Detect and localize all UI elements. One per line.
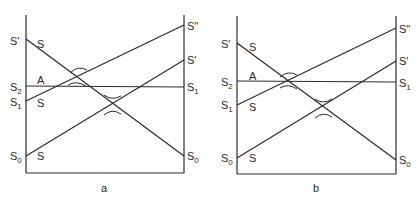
right-label-s0: S0 [399, 154, 411, 169]
line-label-s: S [37, 97, 44, 109]
line-s2-to-s1-horizontal [237, 81, 396, 82]
line-label-a: A [37, 74, 45, 86]
panel-caption-a: a [101, 182, 108, 194]
left-label-s-prime: S' [221, 38, 230, 50]
angle-arc [104, 111, 121, 115]
right-label-s-double-prime: S" [187, 20, 198, 32]
line-label-a: A [249, 70, 257, 82]
line-s-prime-to-s0 [26, 39, 184, 156]
left-label-s0: S0 [221, 152, 233, 167]
angle-arc [68, 83, 86, 86]
right-label-s0: S0 [187, 150, 199, 165]
right-label-s-double-prime: S" [399, 23, 410, 35]
line-s0-to-s-prime [26, 60, 184, 156]
left-label-s2: S2 [10, 81, 22, 96]
line-s1-to-s-double-prime [26, 25, 184, 101]
right-label-s1: S1 [187, 81, 199, 96]
line-label-s: S [249, 152, 256, 164]
line-label-s: S [37, 38, 44, 50]
panel-b: S' S2 S1 S0 S" S' S1 S0 S A S S b [221, 16, 411, 194]
line-s0-to-s-prime [237, 61, 396, 158]
right-label-s-prime: S' [187, 54, 196, 66]
line-label-s: S [37, 150, 44, 162]
left-label-s1: S1 [10, 96, 22, 111]
panel-a: S' S2 S1 S0 S" S' S1 S0 S A S S a [10, 15, 199, 194]
left-label-s1: S1 [221, 99, 233, 114]
angle-arc [280, 86, 297, 89]
panel-caption-b: b [313, 182, 319, 194]
line-s2-to-s1-horizontal [26, 86, 184, 87]
angle-arc [104, 95, 121, 98]
angle-arc [315, 114, 332, 118]
diagram: S' S2 S1 S0 S" S' S1 S0 S A S S a S' S2 … [0, 0, 420, 198]
line-label-s: S [249, 41, 256, 53]
right-label-s-prime: S' [399, 55, 408, 67]
right-label-s1: S1 [399, 77, 411, 92]
line-s1-to-s-double-prime [237, 28, 396, 105]
line-label-s: S [249, 101, 256, 113]
left-label-s-prime: S' [10, 35, 19, 47]
left-label-s2: S2 [221, 76, 233, 91]
line-s-prime-to-s0 [237, 43, 396, 160]
left-label-s0: S0 [10, 150, 22, 165]
